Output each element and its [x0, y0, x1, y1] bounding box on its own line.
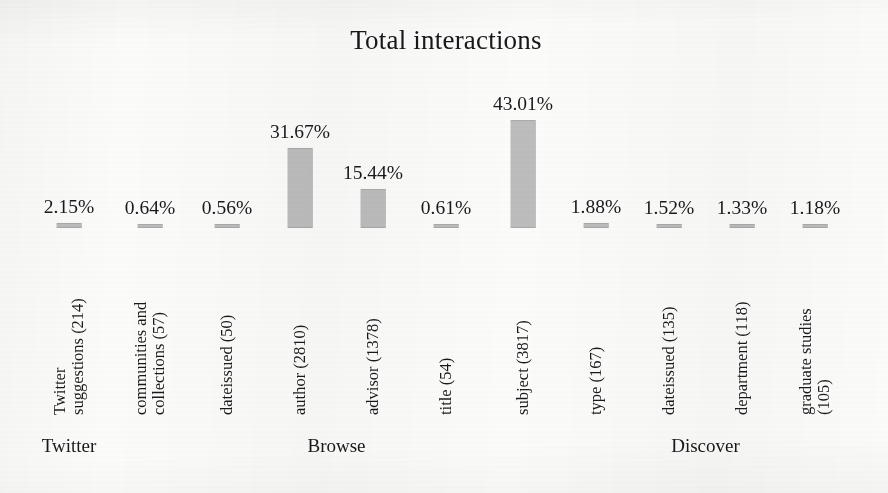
category-label: type (167) [587, 347, 605, 415]
bar-value-label: 2.15% [44, 197, 94, 217]
bar-value-label: 1.18% [790, 198, 840, 218]
bar[interactable] [288, 148, 313, 228]
bar[interactable] [584, 223, 609, 228]
category-label-line: advisor (1378) [364, 318, 382, 415]
chart-container: Total interactions 2.15%Twittersuggestio… [0, 0, 888, 493]
category-label: department (118) [733, 302, 751, 415]
bar[interactable] [730, 224, 755, 228]
category-label-line: (105) [815, 308, 833, 415]
category-label-line: type (167) [587, 347, 605, 415]
category-label: author (2810) [291, 325, 309, 415]
category-label-line: author (2810) [291, 325, 309, 415]
category-label-line: Twitter [51, 298, 69, 415]
bar[interactable] [361, 189, 386, 228]
group-label-browse: Browse [307, 436, 365, 455]
bar-group: 0.61%title (54) [404, 0, 489, 493]
bar-value-label: 1.33% [717, 198, 767, 218]
bar-value-label: 43.01% [493, 94, 553, 114]
category-label: title (54) [437, 358, 455, 415]
category-label: dateissued (50) [218, 315, 236, 415]
bar[interactable] [57, 223, 82, 228]
category-label: communities andcollections (57) [132, 302, 168, 415]
bar-value-label: 1.52% [644, 198, 694, 218]
category-label: advisor (1378) [364, 318, 382, 415]
category-label: dateissued (135) [660, 306, 678, 415]
category-label: subject (3817) [514, 320, 532, 415]
category-label-line: subject (3817) [514, 320, 532, 415]
category-label-line: collections (57) [150, 302, 168, 415]
category-label-line: suggestions (214) [69, 298, 87, 415]
bar[interactable] [657, 224, 682, 228]
bar[interactable] [138, 224, 163, 228]
category-label: graduate studies(105) [797, 308, 833, 415]
bar[interactable] [434, 224, 459, 228]
category-label-line: communities and [132, 302, 150, 415]
bar-value-label: 31.67% [270, 122, 330, 142]
bar[interactable] [215, 224, 240, 228]
category-label-line: title (54) [437, 358, 455, 415]
group-label-twitter: Twitter [42, 436, 97, 455]
category-label-line: department (118) [733, 302, 751, 415]
bar-value-label: 0.56% [202, 198, 252, 218]
bar-value-label: 0.64% [125, 198, 175, 218]
bar-group: 2.15%Twittersuggestions (214) [27, 0, 112, 493]
bar[interactable] [511, 120, 536, 228]
bar-group: 1.18%graduate studies(105) [773, 0, 858, 493]
bar-value-label: 15.44% [343, 163, 403, 183]
category-label-line: dateissued (50) [218, 315, 236, 415]
category-label-line: dateissued (135) [660, 306, 678, 415]
bar[interactable] [803, 224, 828, 228]
category-label: Twittersuggestions (214) [51, 298, 87, 415]
bar-group: 0.64%communities andcollections (57) [108, 0, 193, 493]
bar-value-label: 0.61% [421, 198, 471, 218]
category-label-line: graduate studies [797, 308, 815, 415]
bar-value-label: 1.88% [571, 197, 621, 217]
plot-area: 2.15%Twittersuggestions (214)0.64%commun… [0, 0, 888, 493]
group-label-discover: Discover [671, 436, 740, 455]
